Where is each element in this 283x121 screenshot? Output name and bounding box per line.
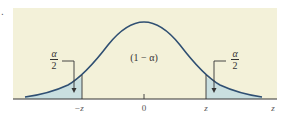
normal-distribution-figure: . (1 − α) α 2 α 2 −z 0 [0, 0, 283, 121]
left-tail-fraction: α 2 [50, 49, 58, 70]
right-fraction-numerator: α [232, 49, 237, 58]
axis-name-label: z [271, 103, 275, 113]
right-tail-fraction: α 2 [231, 49, 239, 70]
left-fraction-numerator: α [51, 49, 56, 58]
pos-z-label: z [204, 103, 208, 113]
zero-label: 0 [142, 103, 147, 113]
left-fraction-denominator: 2 [52, 61, 57, 70]
center-area-label: (1 − α) [130, 52, 158, 63]
neg-z-label: −z [74, 103, 84, 113]
right-fraction-denominator: 2 [233, 61, 238, 70]
